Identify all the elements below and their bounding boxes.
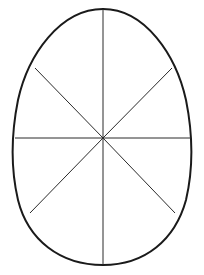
divider-diagonal-upper-right <box>103 68 172 138</box>
divider-diagonal-lower-right <box>103 138 175 213</box>
divider-diagonal-lower-left <box>30 138 103 213</box>
egg-drawing <box>0 0 204 275</box>
divider-diagonal-upper-left <box>35 68 103 138</box>
egg-diagram <box>0 0 204 275</box>
